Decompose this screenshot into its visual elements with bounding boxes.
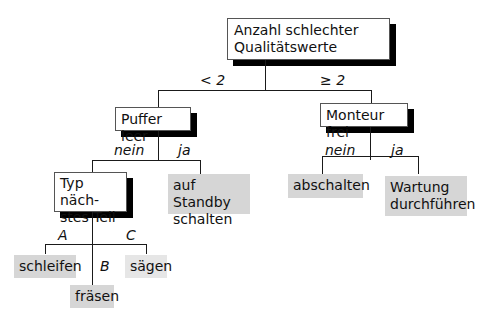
puffer-stem <box>158 131 159 160</box>
puffer-branch-nein: nein <box>114 142 144 158</box>
root-decision-node: Anzahl schlechter Qualitätswerte <box>227 18 390 60</box>
typ-stem <box>92 212 93 292</box>
puffer-leer-label: Puffer leer <box>121 111 185 145</box>
leaf-schleifen: schleifen <box>14 255 76 278</box>
root-stem <box>265 60 266 90</box>
leaf-saegen: sägen <box>125 255 167 278</box>
root-node-line2: Qualitätswerte <box>234 39 383 56</box>
standby-line2: schalten <box>173 211 245 228</box>
wartung-line1: Wartung <box>390 179 462 196</box>
monteur-right-drop <box>418 156 419 174</box>
puffer-split-line <box>92 160 201 161</box>
monteur-branch-ja: ja <box>391 142 403 158</box>
typ-naechstes-teil-node: Typ näch- stes Teil <box>54 172 127 212</box>
monteur-branch-nein: nein <box>325 142 355 158</box>
right-branch-drop <box>371 90 372 103</box>
typ-line1: Typ näch- <box>60 175 121 209</box>
root-node-line1: Anzahl schlechter <box>234 22 383 39</box>
puffer-left-drop <box>92 160 93 172</box>
leaf-fraesen: fräsen <box>70 285 114 308</box>
branch-label-ge-2: ≥ 2 <box>320 72 345 88</box>
monteur-frei-node: Monteur frei <box>320 103 408 127</box>
root-split-line <box>158 90 372 91</box>
typ-line2: stes Teil <box>60 209 121 226</box>
leaf-auf-standby-schalten: auf Standby schalten <box>168 174 250 214</box>
standby-line1: auf Standby <box>173 177 245 211</box>
wartung-line2: durchführen <box>390 196 462 213</box>
typ-a-drop <box>45 244 46 254</box>
leaf-wartung-durchfuehren: Wartung durchführen <box>385 176 467 216</box>
leaf-abschalten: abschalten <box>288 174 363 198</box>
typ-branch-a: A <box>58 227 68 243</box>
typ-c-drop <box>146 244 147 254</box>
typ-branch-b: B <box>100 258 110 274</box>
typ-branch-c: C <box>126 227 136 243</box>
branch-label-less-than-2: < 2 <box>200 72 225 88</box>
left-branch-drop <box>158 90 159 107</box>
puffer-branch-ja: ja <box>178 142 190 158</box>
typ-split-line <box>45 244 147 245</box>
monteur-left-drop <box>322 156 323 174</box>
puffer-right-drop <box>200 160 201 174</box>
monteur-frei-label: Monteur frei <box>326 107 402 141</box>
puffer-leer-node: Puffer leer <box>115 107 191 131</box>
